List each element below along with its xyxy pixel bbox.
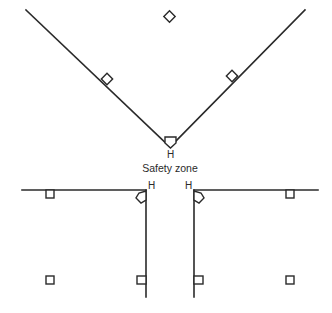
lower-right-field: H xyxy=(185,180,318,297)
lower-left-field: H xyxy=(22,180,155,297)
base-icon xyxy=(286,190,294,198)
upper-field: H xyxy=(26,10,305,160)
home-plate-icon xyxy=(194,191,204,203)
safety-zone-diagram: H Safety zone H H xyxy=(0,0,332,313)
second-base-icon xyxy=(164,11,175,22)
home-plate-icon xyxy=(136,191,146,203)
base-icon xyxy=(194,276,203,284)
base-icon xyxy=(46,190,54,198)
right-foul-line xyxy=(170,10,305,147)
home-plate-icon xyxy=(165,137,176,148)
left-foul-line xyxy=(26,10,170,147)
base-icon xyxy=(46,276,54,284)
home-label: H xyxy=(185,180,192,191)
home-label: H xyxy=(167,149,174,160)
base-icon xyxy=(137,276,146,284)
safety-zone-caption: Safety zone xyxy=(142,162,198,174)
base-icon xyxy=(286,276,294,284)
home-label: H xyxy=(148,180,155,191)
